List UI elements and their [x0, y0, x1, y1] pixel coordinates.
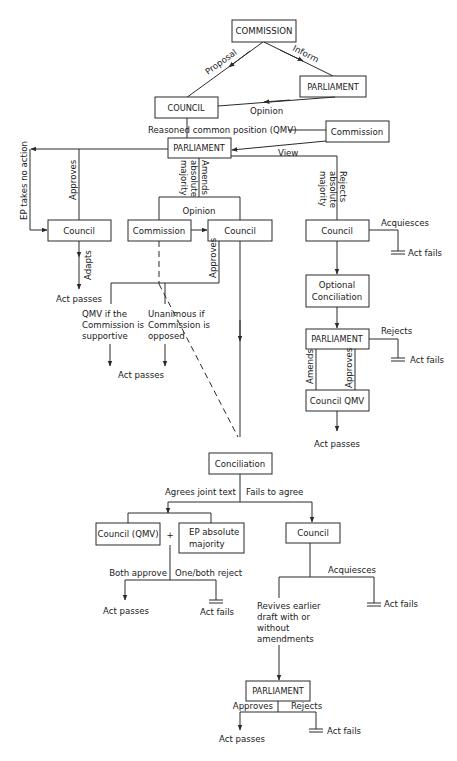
- council-qmv-bottom-label: Council (QMV): [97, 529, 158, 539]
- node-council-1: COUNCIL: [155, 97, 218, 118]
- outcome-act-fails-3: Act fails: [200, 607, 235, 617]
- ep-absolute-majority-label-1: EP absolute: [189, 527, 239, 537]
- note-qmv-2: Commission is: [82, 320, 145, 330]
- note-unanimous-3: opposed: [148, 331, 185, 341]
- note-revives-2: draft with or: [257, 612, 310, 622]
- optional-conciliation-label-2: Conciliation: [312, 292, 362, 302]
- note-revives-3: without: [257, 623, 290, 633]
- label-rejects-3: majority: [318, 171, 328, 207]
- note-revives-1: Revives earlier: [257, 601, 321, 611]
- label-one-both-reject: One/both reject: [175, 568, 243, 578]
- ep-absolute-majority-label-2: majority: [189, 539, 225, 549]
- label-reasoned-common-position: Reasoned common position (QMV): [148, 125, 297, 135]
- label-adapts: Adapts: [83, 250, 93, 280]
- optional-conciliation-label-1: Optional: [319, 280, 355, 290]
- node-parliament-bottom: PARLIAMENT: [246, 681, 310, 701]
- outcome-act-passes-4: Act passes: [103, 606, 150, 616]
- label-amends-3: majority: [179, 160, 189, 196]
- node-parliament-2: PARLIAMENT: [168, 138, 231, 158]
- label-amends-right: Amends: [305, 349, 315, 384]
- node-council-right: Council: [306, 220, 369, 241]
- note-unanimous-1: Unanimous if: [148, 309, 206, 319]
- note-qmv-1: QMV if the: [82, 309, 127, 319]
- label-acquiesces-bottom: Acquiesces: [328, 565, 377, 575]
- label-approves-bottom: Approves: [233, 701, 274, 711]
- note-qmv-3: supportive: [82, 331, 128, 341]
- node-commission-top: COMMISSION: [232, 20, 296, 42]
- outcome-act-fails-1: Act fails: [408, 248, 443, 258]
- council-1-label: COUNCIL: [168, 103, 205, 113]
- council-left-label: Council: [63, 226, 95, 236]
- label-opinion-2: Opinion: [182, 206, 215, 216]
- label-acquiesces-right: Acquiesces: [381, 218, 430, 228]
- parliament-1-label: PARLIAMENT: [307, 82, 360, 92]
- note-unanimous-2: Commission is: [148, 320, 211, 330]
- outcome-act-passes-1: Act passes: [56, 294, 103, 304]
- label-agrees-joint-text: Agrees joint text: [165, 487, 237, 497]
- note-revives-4: amendments: [257, 634, 314, 644]
- parliament-2-label: PARLIAMENT: [173, 143, 226, 153]
- commission-mid-label: Commission: [133, 226, 185, 236]
- council-mid-label: Council: [224, 226, 256, 236]
- node-council-left: Council: [48, 220, 111, 241]
- council-right-label: Council: [321, 226, 353, 236]
- label-approves-mid: Approves: [208, 237, 218, 278]
- council-qmv-right-label: Council QMV: [310, 396, 365, 406]
- label-rejects-2: absolute: [328, 171, 338, 208]
- commission-side-label: Commission: [331, 127, 383, 137]
- node-commission-side: Commission: [326, 121, 389, 142]
- conciliation-label: Conciliation: [215, 459, 265, 469]
- label-ep-takes-no-action: EP takes no action: [19, 141, 29, 220]
- label-amends-2: absolute: [189, 160, 199, 197]
- node-parliament-right: PARLIAMENT: [306, 329, 369, 349]
- node-optional-conciliation: Optional Conciliation: [306, 275, 369, 307]
- label-approves-right: Approves: [344, 347, 354, 388]
- outcome-act-passes-5: Act passes: [219, 734, 266, 744]
- label-inform: Inform: [291, 43, 321, 65]
- parliament-right-label: PARLIAMENT: [311, 334, 364, 344]
- label-rejects-bottom: Rejects: [291, 701, 323, 711]
- outcome-act-fails-4: Act fails: [384, 599, 419, 609]
- node-commission-mid: Commission: [128, 220, 191, 241]
- label-opinion-1: Opinion: [250, 106, 283, 116]
- label-rejects-right: Rejects: [381, 326, 413, 336]
- label-plus: +: [166, 530, 173, 540]
- node-ep-absolute-majority: EP absolute majority: [179, 523, 244, 553]
- commission-top-label: COMMISSION: [236, 26, 293, 36]
- label-amends-1: Amends: [200, 160, 210, 195]
- parliament-bottom-label: PARLIAMENT: [252, 686, 305, 696]
- node-parliament-1: PARLIAMENT: [300, 76, 366, 97]
- label-both-approve: Both approve: [109, 568, 167, 578]
- node-council-qmv-right: Council QMV: [306, 390, 369, 411]
- outcome-act-passes-2: Act passes: [118, 370, 165, 380]
- outcome-act-passes-3: Act passes: [314, 439, 361, 449]
- outcome-act-fails-2: Act fails: [410, 355, 445, 365]
- node-council-qmv-bottom: Council (QMV): [96, 523, 160, 545]
- outcome-act-fails-5: Act fails: [327, 726, 362, 736]
- label-fails-to-agree: Fails to agree: [246, 487, 303, 497]
- edge-proposal: [186, 42, 263, 98]
- label-rejects-1: Rejects: [338, 171, 348, 203]
- node-council-bottom: Council: [286, 523, 340, 543]
- label-approves-left: Approves: [68, 159, 78, 200]
- legislative-procedure-flowchart: COMMISSION Proposal Inform PARLIAMENT CO…: [0, 0, 457, 761]
- council-bottom-label: Council: [297, 528, 329, 538]
- node-conciliation: Conciliation: [209, 453, 272, 474]
